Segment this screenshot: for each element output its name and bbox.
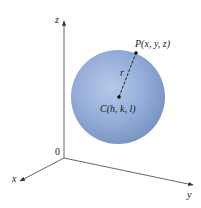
sphere-diagram: z 0 x y P(x, y, z) r C(h, k, l) [0, 0, 201, 208]
point-c-label: C(h, k, l) [100, 104, 136, 114]
point-p-label: P(x, y, z) [135, 39, 170, 49]
z-axis-label: z [55, 15, 59, 25]
point-c [117, 95, 121, 99]
point-p [134, 51, 138, 55]
origin-label: 0 [55, 147, 60, 157]
y-axis-label: y [187, 190, 191, 200]
radius-label: r [120, 68, 124, 78]
x-axis [20, 158, 64, 181]
y-axis [64, 158, 193, 185]
x-axis-label: x [12, 174, 16, 184]
